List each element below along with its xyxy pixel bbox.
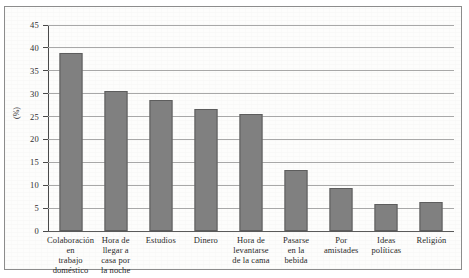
bar[interactable] [104, 91, 127, 231]
bar[interactable] [330, 188, 353, 231]
y-tick-label-25: 25 [13, 113, 39, 122]
bar[interactable] [285, 170, 308, 231]
x-axis-label-line: políticas [358, 245, 415, 255]
bar-slot [48, 25, 93, 231]
x-axis-label-line: bebida [268, 255, 325, 265]
bar[interactable] [420, 202, 443, 231]
bar[interactable] [239, 114, 262, 231]
x-axis-label: Religión [403, 235, 460, 245]
bar-slot [138, 25, 183, 231]
bar[interactable] [149, 100, 172, 231]
y-tick-label-20: 20 [13, 135, 39, 144]
bar-slot [274, 25, 319, 231]
y-tick-label-15: 15 [13, 158, 39, 167]
bar-slot [364, 25, 409, 231]
x-axis-labels: ColaboraciónentrabajodomésticoHora delle… [48, 235, 454, 278]
plot-area [48, 25, 454, 231]
bar[interactable] [375, 204, 398, 231]
x-axis-label-line: casa por [87, 255, 144, 265]
y-tick-label-0: 0 [13, 227, 39, 236]
x-axis-label-line: Religión [403, 235, 460, 245]
y-tick-label-40: 40 [13, 44, 39, 53]
figure-frame: (%) 051015202530354045 Colaboraciónentra… [4, 6, 462, 270]
bar[interactable] [59, 53, 82, 231]
x-axis-label-line: llegar a [87, 245, 144, 255]
y-tick-label-10: 10 [13, 181, 39, 190]
y-tick-label-5: 5 [13, 204, 39, 213]
bar-slot [319, 25, 364, 231]
y-tick-label-45: 45 [13, 21, 39, 30]
bar[interactable] [194, 109, 217, 231]
y-tick-label-35: 35 [13, 67, 39, 76]
bar-slot [228, 25, 273, 231]
bar-slot [183, 25, 228, 231]
y-tick-label-30: 30 [13, 90, 39, 99]
bar-slot [93, 25, 138, 231]
x-axis-label-line: la noche [87, 265, 144, 275]
bar-slot [409, 25, 454, 231]
